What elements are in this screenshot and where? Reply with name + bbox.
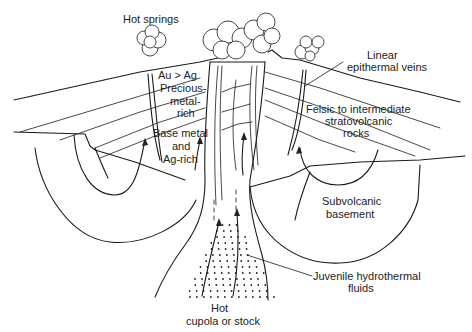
label-epithermal-veins: epithermal veins	[347, 61, 427, 73]
label-felsic: Felsic to intermediate	[306, 103, 411, 115]
steam-cloud-left	[137, 25, 166, 56]
arrowhead-mid	[241, 132, 247, 140]
label-subvolcanic: Subvolcanic	[322, 195, 381, 207]
label-fluids: fluids	[348, 282, 374, 294]
conduit-strata-1	[222, 84, 250, 92]
convection-right-branch	[295, 172, 310, 220]
conduit-inner-left	[215, 66, 218, 205]
label-linear: Linear	[367, 49, 398, 61]
cupola-arrow-right	[233, 212, 238, 296]
label-and: and	[172, 140, 190, 152]
conduit-inner-left-2	[220, 66, 222, 200]
convection-cell-right-inner	[300, 148, 378, 185]
label-hot: Hot	[211, 302, 228, 314]
cupola-dot-pattern	[189, 224, 275, 298]
vein-hot-springs	[148, 74, 160, 160]
conduit-strata-2	[222, 104, 250, 112]
label-base-metal: Base metal	[153, 127, 208, 139]
label-basement: basement	[326, 208, 374, 220]
arrowhead-cupola-right	[234, 208, 240, 216]
conduit-inner-right	[250, 66, 254, 170]
label-rocks: rocks	[343, 127, 369, 139]
label-juvenile: Juvenile hydrothermal	[313, 270, 421, 282]
leader-linear-veins	[305, 62, 343, 86]
basement-contact-right	[250, 156, 465, 187]
label-hot-springs: Hot springs	[123, 13, 179, 25]
steam-cloud-right	[295, 36, 324, 61]
conduit-wall-right	[250, 62, 268, 300]
label-stratovolcanic: stratovolcanic	[325, 115, 392, 127]
label-au-gt-ag: Au > Ag	[158, 69, 197, 81]
arrowhead-cupola-left	[216, 218, 222, 226]
label-precious-1: Precious-	[160, 82, 206, 94]
conduit-strata-3	[222, 122, 252, 130]
label-cupola-or-stock: cupola or stock	[186, 315, 260, 327]
fluid-arrow-mid	[242, 135, 244, 175]
epithermal-cross-section-diagram: Hot springs Au > Ag Precious- metal- ric…	[0, 0, 472, 332]
label-ag-rich: Ag-rich	[163, 153, 198, 165]
label-precious-3: rich	[177, 107, 195, 119]
ground-surface-right	[268, 50, 460, 102]
label-precious-2: metal-	[170, 95, 201, 107]
conduit-inner-right-2	[255, 66, 258, 165]
arrowhead-right	[296, 146, 302, 154]
diagram-drawing	[0, 0, 472, 332]
